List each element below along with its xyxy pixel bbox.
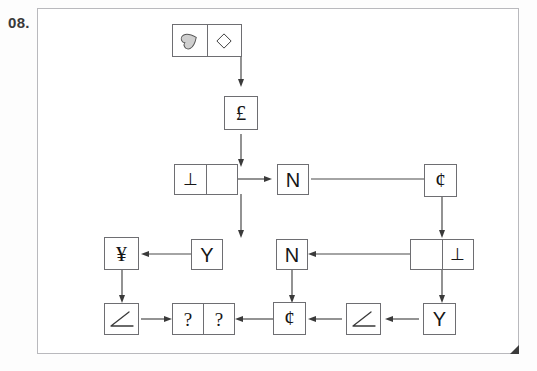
arrow-cent-to-perp-right — [438, 197, 446, 239]
letter-y-middle-cell: Y — [192, 240, 222, 269]
letter-n-top-glyph: N — [286, 170, 300, 190]
answer-cell-1[interactable]: ? — [173, 304, 203, 334]
yen-cell: ¥ — [105, 238, 138, 269]
arrow-cent-bottom-to-answer — [235, 315, 273, 323]
pound-cell: £ — [225, 97, 257, 129]
yen-glyph: ¥ — [116, 243, 127, 265]
question-frame: £ ⊥ N ¢ — [37, 8, 519, 354]
angle-box-left — [104, 303, 139, 335]
start-shapes-cell-1 — [173, 25, 207, 56]
arrow-angle-left-to-answer — [141, 315, 173, 323]
arrow-perp-to-y — [237, 194, 245, 239]
pound-glyph: £ — [236, 103, 247, 124]
perp-right-cell-2: ⊥ — [442, 240, 474, 269]
arrow-n-middle-to-cent-bottom — [288, 269, 296, 304]
angle-box-right — [346, 303, 381, 335]
cent-top-glyph: ¢ — [435, 170, 446, 191]
arrow-angle-right-to-cent-bottom — [308, 315, 342, 323]
arrow-perp-to-n-top — [237, 175, 273, 183]
arrow-pound-to-perp — [237, 134, 245, 168]
start-shapes-cell-2 — [207, 25, 242, 56]
cent-box-bottom: ¢ — [273, 302, 306, 335]
letter-y-box-middle: Y — [191, 239, 223, 270]
diamond-icon — [215, 32, 233, 50]
flowchart-diagram: £ ⊥ N ¢ — [38, 9, 520, 355]
yen-box: ¥ — [104, 237, 139, 270]
heart-icon — [177, 28, 202, 53]
answer-glyph-1: ? — [184, 310, 192, 329]
letter-n-box-top: N — [277, 164, 309, 195]
angle-icon — [351, 310, 377, 328]
letter-n-middle-cell: N — [277, 240, 307, 269]
perp-left-cell-2 — [206, 165, 238, 194]
answer-glyph-2: ? — [215, 310, 223, 329]
start-shapes-box — [172, 24, 242, 57]
arrow-start-to-pound — [237, 55, 245, 88]
angle-left-cell — [105, 304, 138, 334]
arrow-perp-right-to-n-middle — [308, 250, 418, 258]
letter-y-box-right: Y — [423, 303, 456, 335]
perp-right-cell-1 — [411, 240, 442, 269]
perp-left-box: ⊥ — [174, 164, 238, 195]
angle-right-cell — [347, 304, 380, 334]
perp-right-box: ⊥ — [410, 239, 474, 270]
letter-n-top-cell: N — [278, 165, 308, 194]
cent-bottom-cell: ¢ — [274, 303, 305, 334]
letter-n-box-middle: N — [276, 239, 308, 270]
arrow-perp-right-to-y-right — [438, 269, 446, 304]
letter-y-middle-glyph: Y — [200, 245, 213, 265]
answer-cell-2[interactable]: ? — [203, 304, 234, 334]
letter-y-right-cell: Y — [424, 304, 455, 334]
cent-bottom-glyph: ¢ — [284, 308, 295, 329]
cent-box-top-right: ¢ — [424, 164, 457, 197]
angle-icon — [109, 310, 135, 328]
cent-top-cell: ¢ — [425, 165, 456, 196]
arrow-y-right-to-angle-right — [385, 315, 419, 323]
letter-y-right-glyph: Y — [433, 309, 446, 329]
arrow-yen-to-angle — [118, 269, 126, 304]
page-canvas: 08. — [0, 0, 537, 371]
letter-n-middle-glyph: N — [285, 245, 299, 265]
answer-box[interactable]: ? ? — [172, 303, 235, 335]
perp-glyph: ⊥ — [183, 171, 198, 188]
perp-glyph-right: ⊥ — [450, 246, 465, 263]
pound-box: £ — [224, 96, 258, 130]
question-number: 08. — [8, 14, 30, 31]
perp-left-cell-1: ⊥ — [175, 165, 206, 194]
